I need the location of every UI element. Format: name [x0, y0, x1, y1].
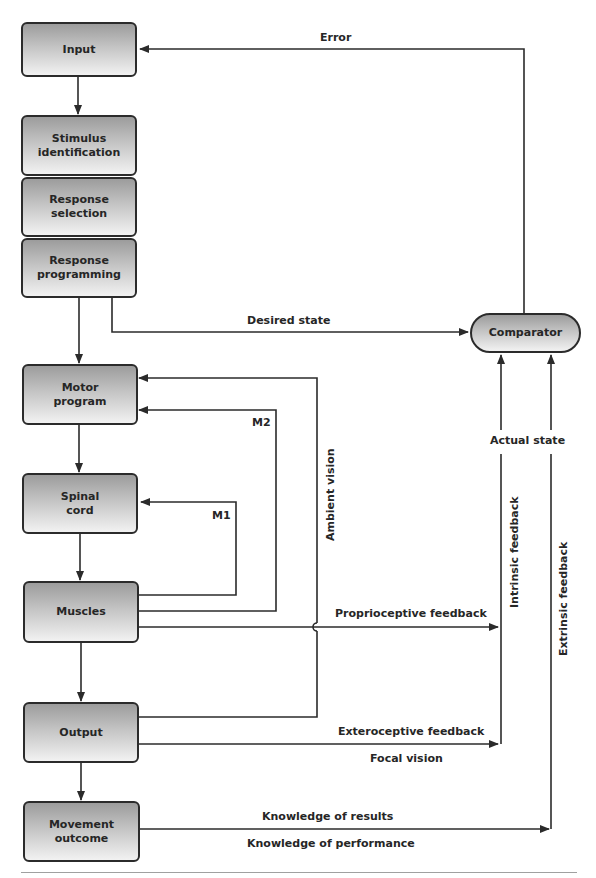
ambient-vision-label: Ambient vision: [324, 448, 337, 541]
error-label: Error: [320, 31, 351, 44]
desired-state-label: Desired state: [247, 314, 330, 327]
input-label: Input: [63, 43, 96, 57]
knowledge-of-results-label: Knowledge of results: [262, 810, 393, 823]
motor-program-box: Motor program: [22, 364, 138, 425]
muscles-box: Muscles: [23, 581, 139, 643]
actual-state-label: Actual state: [490, 434, 565, 447]
response-programming-box: Response programming: [21, 238, 137, 298]
stimulus-identification-label: Stimulus identification: [34, 132, 124, 160]
response-programming-label: Response programming: [34, 254, 124, 282]
movement-outcome-box: Movement outcome: [23, 801, 140, 862]
input-box: Input: [21, 22, 137, 77]
output-box: Output: [23, 702, 139, 763]
focal-vision-label: Focal vision: [370, 752, 443, 765]
comparator-label: Comparator: [489, 326, 562, 340]
movement-outcome-label: Movement outcome: [42, 818, 122, 846]
response-selection-box: Response selection: [21, 177, 137, 237]
motor-program-label: Motor program: [45, 381, 115, 409]
response-selection-label: Response selection: [39, 193, 119, 221]
stimulus-identification-box: Stimulus identification: [21, 115, 137, 176]
muscles-label: Muscles: [56, 605, 106, 619]
comparator-box: Comparator: [470, 313, 581, 353]
spinal-cord-label: Spinal cord: [55, 490, 105, 518]
m1-label: M1: [212, 509, 231, 522]
extrinsic-feedback-label: Extrinsic feedback: [557, 542, 570, 656]
output-label: Output: [59, 726, 102, 740]
m2-label: M2: [252, 416, 271, 429]
knowledge-of-performance-label: Knowledge of performance: [247, 837, 415, 850]
exteroceptive-feedback-label: Exteroceptive feedback: [338, 725, 484, 738]
proprioceptive-feedback-label: Proprioceptive feedback: [335, 607, 487, 620]
bottom-rule: [21, 872, 577, 873]
intrinsic-feedback-label: Intrinsic feedback: [508, 496, 521, 608]
spinal-cord-box: Spinal cord: [22, 473, 138, 534]
